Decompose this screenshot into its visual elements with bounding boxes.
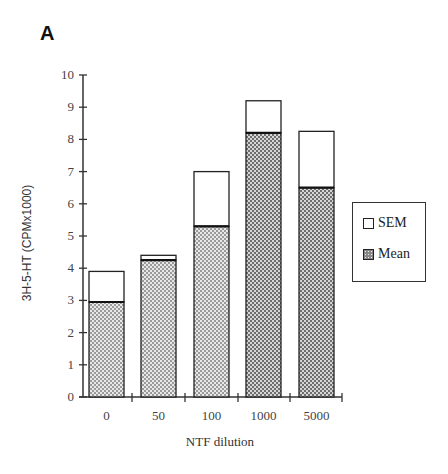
legend-label-sem: SEM: [378, 215, 407, 231]
y-tick-label: 1: [68, 357, 75, 372]
y-tick-label: 10: [61, 67, 74, 82]
y-tick-label: 0: [68, 389, 75, 404]
sem-segment: [246, 101, 281, 133]
y-tick-label: 6: [68, 196, 75, 211]
y-tick-label: 7: [68, 164, 75, 179]
bar-group-50: 50: [141, 255, 176, 423]
bars: 05010010005000: [89, 101, 334, 423]
legend-label-mean: Mean: [378, 246, 410, 262]
mean-segment: [246, 133, 281, 397]
mean-segment: [89, 302, 124, 397]
sem-segment: [299, 131, 334, 187]
sem-segment: [89, 271, 124, 302]
x-tick-label: 1000: [251, 408, 277, 423]
x-tick-label: 50: [152, 408, 165, 423]
y-tick-label: 9: [68, 99, 75, 114]
x-axis-label: NTF dilution: [150, 434, 290, 450]
bar-group-100: 100: [194, 172, 229, 423]
x-tick-label: 0: [103, 408, 110, 423]
legend-item-sem: SEM: [363, 215, 407, 231]
bar-group-1000: 1000: [246, 101, 281, 423]
y-tick-label: 5: [68, 228, 75, 243]
y-tick-label: 2: [68, 325, 75, 340]
y-tick-label: 3: [68, 292, 75, 307]
y-tick-label: 4: [68, 260, 75, 275]
mean-segment: [194, 226, 229, 397]
mean-segment: [299, 188, 334, 397]
legend: SEM Mean: [352, 202, 426, 282]
bar-group-5000: 5000: [299, 131, 334, 423]
mean-swatch-icon: [363, 249, 374, 260]
sem-swatch-icon: [363, 218, 374, 229]
y-tick-label: 8: [68, 131, 75, 146]
bar-group-0: 0: [89, 271, 124, 423]
mean-segment: [141, 260, 176, 397]
sem-segment: [194, 172, 229, 227]
y-axis-label: 3H-5-HT (CPMx1000): [20, 173, 34, 313]
x-tick-label: 5000: [304, 408, 330, 423]
x-tick-label: 100: [202, 408, 222, 423]
legend-item-mean: Mean: [363, 246, 410, 262]
